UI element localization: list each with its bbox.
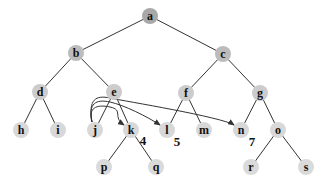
- tree-node-d: d: [32, 84, 48, 100]
- node-label: g: [257, 86, 263, 100]
- node-label: j: [92, 123, 97, 137]
- node-label: h: [18, 123, 25, 137]
- node-label: a: [147, 9, 153, 23]
- node-label: q: [153, 160, 160, 174]
- arrow-j-to-n: [91, 97, 234, 125]
- tree-node-s: s: [298, 159, 314, 175]
- edge-a-b: [76, 16, 150, 53]
- tree-diagram: abcdefghijklmnopqrs 457: [0, 0, 329, 180]
- annotation-k: 4: [140, 133, 147, 148]
- tree-node-a: a: [142, 8, 158, 24]
- tree-node-o: o: [270, 122, 286, 138]
- tree-node-n: n: [233, 122, 249, 138]
- node-label: c: [220, 47, 226, 61]
- tree-node-c: c: [215, 46, 231, 62]
- tree-node-g: g: [252, 85, 268, 101]
- annotation-n: 7: [249, 134, 256, 149]
- node-label: m: [199, 123, 209, 137]
- node-label: k: [128, 123, 135, 137]
- tree-node-k: k: [123, 122, 139, 138]
- edge-c-f: [186, 54, 223, 93]
- tree-node-i: i: [50, 122, 66, 138]
- tree-node-p: p: [96, 159, 112, 175]
- node-label: d: [37, 85, 44, 99]
- tree-nodes: abcdefghijklmnopqrs: [13, 8, 314, 175]
- tree-node-f: f: [178, 85, 194, 101]
- node-label: o: [275, 123, 281, 137]
- annotation-l: 5: [174, 134, 181, 149]
- tree-node-m: m: [196, 122, 212, 138]
- tree-node-e: e: [106, 84, 122, 100]
- arrow-j-to-l: [91, 101, 160, 125]
- pointer-arrows: [91, 97, 234, 125]
- edge-c-g: [223, 54, 260, 93]
- node-label: b: [73, 46, 80, 60]
- edge-b-e: [76, 53, 114, 92]
- tree-node-h: h: [13, 122, 29, 138]
- tree-node-l: l: [159, 122, 175, 138]
- node-label: r: [248, 160, 254, 174]
- node-label: p: [101, 160, 108, 174]
- tree-node-r: r: [243, 159, 259, 175]
- node-label: s: [304, 160, 309, 174]
- tree-node-b: b: [68, 45, 84, 61]
- edge-a-c: [150, 16, 223, 54]
- node-label: n: [238, 123, 245, 137]
- tree-node-j: j: [87, 122, 103, 138]
- node-label: e: [111, 85, 117, 99]
- tree-node-q: q: [148, 159, 164, 175]
